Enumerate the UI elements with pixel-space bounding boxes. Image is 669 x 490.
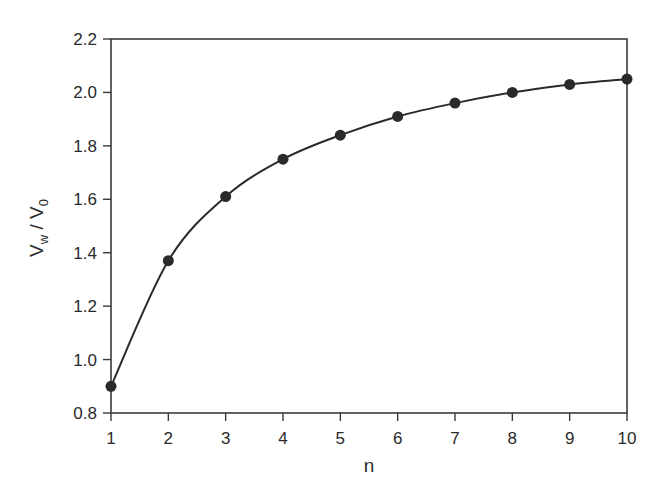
x-axis-label: n xyxy=(364,455,375,476)
y-label-v1: V xyxy=(26,244,47,257)
y-tick-label: 2.2 xyxy=(73,30,97,49)
data-point xyxy=(335,130,346,141)
x-tick-label: 5 xyxy=(336,429,345,448)
y-label-v2: V xyxy=(26,206,47,219)
chart: 0.81.01.21.41.61.82.02.2 12345678910 n V… xyxy=(0,0,669,490)
x-tick-label: 9 xyxy=(565,429,574,448)
data-point xyxy=(163,255,174,266)
data-point xyxy=(278,154,289,165)
y-tick-label: 1.4 xyxy=(73,244,97,263)
y-tick-label: 0.8 xyxy=(73,404,97,423)
x-tick-label: 6 xyxy=(393,429,402,448)
data-curve xyxy=(111,79,627,386)
y-label-sub-0: 0 xyxy=(36,199,51,206)
x-tick-label: 3 xyxy=(221,429,230,448)
data-point xyxy=(220,191,231,202)
y-label-sub-w: w xyxy=(36,234,51,245)
data-point xyxy=(564,79,575,90)
data-point xyxy=(622,74,633,85)
plot-frame xyxy=(111,39,627,413)
x-tick-label: 8 xyxy=(508,429,517,448)
x-tick-label: 4 xyxy=(278,429,287,448)
data-point xyxy=(450,98,461,109)
x-axis-ticks: 12345678910 xyxy=(106,413,636,448)
x-tick-label: 7 xyxy=(450,429,459,448)
x-tick-label: 10 xyxy=(618,429,637,448)
y-tick-label: 1.6 xyxy=(73,190,97,209)
data-point xyxy=(392,111,403,122)
data-point xyxy=(507,87,518,98)
x-tick-label: 2 xyxy=(164,429,173,448)
y-tick-label: 1.8 xyxy=(73,137,97,156)
data-point xyxy=(106,381,117,392)
y-label-sep: / xyxy=(26,219,47,235)
plot-border xyxy=(111,39,627,413)
data-markers xyxy=(106,74,633,392)
y-axis-label: Vw / V0 xyxy=(26,199,51,257)
y-tick-label: 1.0 xyxy=(73,351,97,370)
y-axis-ticks: 0.81.01.21.41.61.82.02.2 xyxy=(73,30,111,423)
x-tick-label: 1 xyxy=(106,429,115,448)
y-tick-label: 2.0 xyxy=(73,83,97,102)
y-tick-label: 1.2 xyxy=(73,297,97,316)
